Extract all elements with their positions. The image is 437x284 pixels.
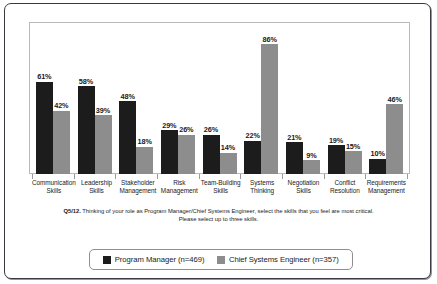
bar-series-1[interactable]: 39% [95, 22, 112, 174]
bar[interactable] [345, 151, 362, 174]
bar[interactable] [261, 44, 278, 174]
bar-value-label: 46% [388, 95, 402, 104]
x-axis-label: Leadership Skills [76, 179, 117, 195]
caption-question-number: Q5/12. [63, 208, 80, 214]
bar[interactable] [53, 111, 70, 174]
bar-series-0[interactable]: 29% [161, 22, 178, 174]
bar-groups: 61%42%58%39%48%18%29%26%26%14%22%86%21%9… [29, 22, 410, 174]
x-axis-label: Requirements Management [366, 179, 407, 195]
bar-series-0[interactable]: 19% [328, 22, 345, 174]
bar-value-label: 22% [246, 131, 260, 140]
bar-series-1[interactable]: 9% [303, 22, 320, 174]
bar-series-1[interactable]: 18% [136, 22, 153, 174]
bar-group: 19%15% [324, 22, 366, 174]
plot-area: 61%42%58%39%48%18%29%26%26%14%22%86%21%9… [29, 22, 410, 174]
bar-group: 10%46% [365, 22, 407, 174]
bar[interactable] [119, 101, 136, 174]
bar[interactable] [286, 142, 303, 174]
bar-series-0[interactable]: 21% [286, 22, 303, 174]
caption-question-line2: Please select up to three skills. [179, 216, 259, 222]
legend-item[interactable]: Chief Systems Engineer (n=357) [217, 255, 338, 264]
bar[interactable] [303, 160, 320, 174]
bar[interactable] [95, 115, 112, 174]
chart-legend: Program Manager (n=469)Chief Systems Eng… [89, 249, 353, 270]
bar-value-label: 14% [221, 143, 235, 152]
bar[interactable] [203, 135, 220, 174]
bar-value-label: 21% [287, 133, 301, 142]
bar-series-1[interactable]: 86% [261, 22, 278, 174]
bar-series-0[interactable]: 48% [119, 22, 136, 174]
bar-value-label: 86% [263, 35, 277, 44]
bar-value-label: 10% [371, 149, 385, 158]
bar-value-label: 9% [306, 151, 316, 160]
bar[interactable] [136, 147, 153, 174]
bar-value-label: 48% [121, 92, 135, 101]
bar-series-1[interactable]: 46% [386, 22, 403, 174]
bar-group: 22%86% [240, 22, 282, 174]
bar-series-1[interactable]: 15% [345, 22, 362, 174]
legend-item[interactable]: Program Manager (n=469) [103, 255, 204, 264]
chart-caption: Q5/12. Thinking of your role as Program … [23, 207, 414, 224]
chart-figure: 61%42%58%39%48%18%29%26%26%14%22%86%21%9… [4, 3, 431, 279]
bar-series-1[interactable]: 42% [53, 22, 70, 174]
bar-series-0[interactable]: 58% [78, 22, 95, 174]
bar[interactable] [244, 141, 261, 174]
x-axis-label: Team-Building Skills [200, 179, 241, 195]
bar-value-label: 15% [346, 142, 360, 151]
x-axis-labels: Communication SkillsLeadership SkillsSta… [29, 179, 410, 195]
bar-value-label: 26% [204, 125, 218, 134]
bar-series-0[interactable]: 22% [244, 22, 261, 174]
caption-question-line1: Thinking of your role as Program Manager… [82, 208, 373, 214]
bar-group: 58%39% [74, 22, 116, 174]
bar-series-1[interactable]: 26% [178, 22, 195, 174]
x-axis-label: Risk Management [159, 179, 200, 195]
bar-value-label: 39% [96, 106, 110, 115]
bar[interactable] [36, 82, 53, 174]
legend-swatch-icon [103, 256, 111, 264]
bar[interactable] [78, 86, 95, 174]
x-axis-label: Negotiation Skills [283, 179, 324, 195]
bar-group: 61%42% [32, 22, 74, 174]
bar-value-label: 58% [79, 77, 93, 86]
bar[interactable] [328, 145, 345, 174]
bar[interactable] [161, 130, 178, 174]
legend-label: Program Manager (n=469) [115, 255, 205, 264]
bar-series-1[interactable]: 14% [220, 22, 237, 174]
legend-swatch-icon [217, 256, 225, 264]
bar-value-label: 42% [54, 101, 68, 110]
bar[interactable] [386, 104, 403, 174]
bar-value-label: 18% [138, 137, 152, 146]
bar-group: 29%26% [157, 22, 199, 174]
bar-group: 21%9% [282, 22, 324, 174]
legend-label: Chief Systems Engineer (n=357) [229, 255, 339, 264]
bar-group: 48%18% [115, 22, 157, 174]
x-axis-label: Systems Thinking [241, 179, 282, 195]
bar-value-label: 29% [162, 121, 176, 130]
x-axis-label: Conflict Resolution [324, 179, 365, 195]
bar-series-0[interactable]: 10% [369, 22, 386, 174]
bar[interactable] [369, 159, 386, 174]
bar-value-label: 19% [329, 136, 343, 145]
bar-series-0[interactable]: 61% [36, 22, 53, 174]
bar-group: 26%14% [199, 22, 241, 174]
x-axis-label: Stakeholder Management [117, 179, 158, 195]
bar-series-0[interactable]: 26% [203, 22, 220, 174]
bar[interactable] [220, 153, 237, 174]
bar-value-label: 26% [179, 125, 193, 134]
x-axis-label: Communication Skills [32, 179, 76, 195]
bar[interactable] [178, 135, 195, 174]
bar-value-label: 61% [37, 72, 51, 81]
